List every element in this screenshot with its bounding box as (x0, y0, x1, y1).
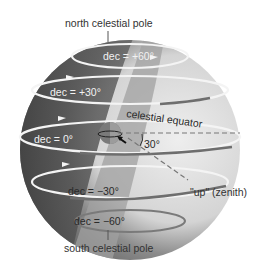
celestial-sphere-diagram: dec = +60° dec = +30° dec = 0° dec = −30… (0, 0, 260, 261)
dec-plus30-label: dec = +30° (50, 86, 101, 98)
zenith-label: "up" (zenith) (190, 186, 247, 198)
dec-minus60-label: dec = −60° (74, 215, 125, 227)
south-celestial-pole-label: south celestial pole (64, 242, 153, 254)
dec-minus30-label: dec = −30° (68, 185, 119, 197)
north-celestial-pole-label: north celestial pole (65, 17, 153, 29)
dec-plus60-label: dec = +60° (103, 50, 154, 62)
angle-label: 30° (144, 138, 160, 150)
dec-0-label: dec = 0° (34, 133, 73, 145)
